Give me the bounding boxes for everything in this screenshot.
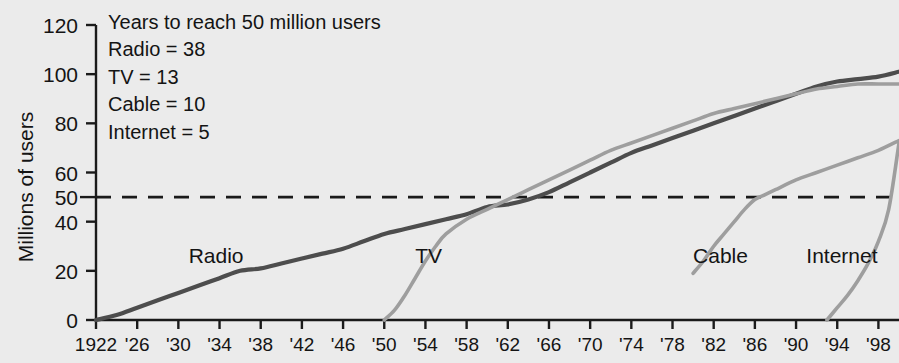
x-tick-label-1998: '98 bbox=[866, 335, 891, 354]
annotation-heading: Years to reach 50 million users bbox=[108, 9, 381, 36]
x-tick-label-1978: '78 bbox=[660, 335, 685, 354]
x-tick-label-1986: '86 bbox=[742, 335, 767, 354]
x-tick-label-1970: '70 bbox=[578, 335, 603, 354]
x-tick-label-1930: '30 bbox=[166, 335, 191, 354]
x-tick-label-1990: '90 bbox=[784, 335, 809, 354]
x-tick-label-1934: '34 bbox=[207, 335, 232, 354]
annotation-line-internet: Internet = 5 bbox=[108, 119, 381, 146]
annotation-line-cable: Cable = 10 bbox=[108, 91, 381, 118]
x-tick-label-1942: '42 bbox=[290, 335, 315, 354]
y-tick-label-40: 40 bbox=[0, 211, 78, 232]
adoption-curve-chart: Millions of users 02040506080100120 1922… bbox=[0, 0, 899, 363]
x-tick-label-1938: '38 bbox=[248, 335, 273, 354]
y-tick-label-0: 0 bbox=[0, 310, 78, 331]
x-tick-label-1982: '82 bbox=[701, 335, 726, 354]
x-tick-label-1966: '66 bbox=[537, 335, 562, 354]
x-tick-label-1974: '74 bbox=[619, 335, 644, 354]
y-tick-label-120: 120 bbox=[0, 15, 78, 36]
y-tick-label-80: 80 bbox=[0, 113, 78, 134]
series-label-internet: Internet bbox=[806, 245, 877, 266]
x-tick-label-1994: '94 bbox=[825, 335, 850, 354]
series-label-cable: Cable bbox=[693, 245, 748, 266]
x-tick-label-1950: '50 bbox=[372, 335, 397, 354]
series-line-internet bbox=[827, 143, 899, 320]
series-line-tv bbox=[384, 84, 899, 320]
x-tick-label-1958: '58 bbox=[454, 335, 479, 354]
x-tick-label-1962: '62 bbox=[495, 335, 520, 354]
series-label-radio: Radio bbox=[189, 245, 244, 266]
y-tick-label-20: 20 bbox=[0, 260, 78, 281]
annotation-block: Years to reach 50 million users Radio = … bbox=[108, 9, 381, 146]
y-tick-label-60: 60 bbox=[0, 162, 78, 183]
annotation-line-radio: Radio = 38 bbox=[108, 36, 381, 63]
series-label-tv: TV bbox=[415, 245, 442, 266]
annotation-line-tv: TV = 13 bbox=[108, 64, 381, 91]
y-tick-label-100: 100 bbox=[0, 64, 78, 85]
x-tick-label-1922: 1922 bbox=[75, 335, 117, 354]
x-tick-label-1954: '54 bbox=[413, 335, 438, 354]
y-tick-label-50: 50 bbox=[0, 187, 78, 208]
x-tick-label-1946: '46 bbox=[331, 335, 356, 354]
x-tick-label-1926: '26 bbox=[125, 335, 150, 354]
